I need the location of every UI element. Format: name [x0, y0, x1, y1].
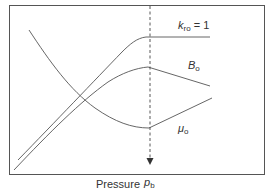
arrow-down-icon [147, 158, 154, 165]
kro-label: kro = 1 [178, 19, 209, 33]
muo-label: μo [178, 122, 188, 136]
kro-label-suffix: = 1 [191, 19, 210, 31]
bo-label: Bo [188, 59, 200, 73]
pb-label-sub: b [150, 181, 154, 190]
pvt-diagram [0, 0, 267, 192]
bo-label-sub: o [195, 64, 199, 73]
muo-curve [29, 30, 212, 128]
x-axis-label: Pressure [96, 178, 140, 190]
kro-label-sub: ro [184, 24, 191, 33]
bubble-point-label: pb [144, 176, 155, 190]
plot-frame [10, 6, 265, 175]
muo-label-sub: o [184, 127, 188, 136]
